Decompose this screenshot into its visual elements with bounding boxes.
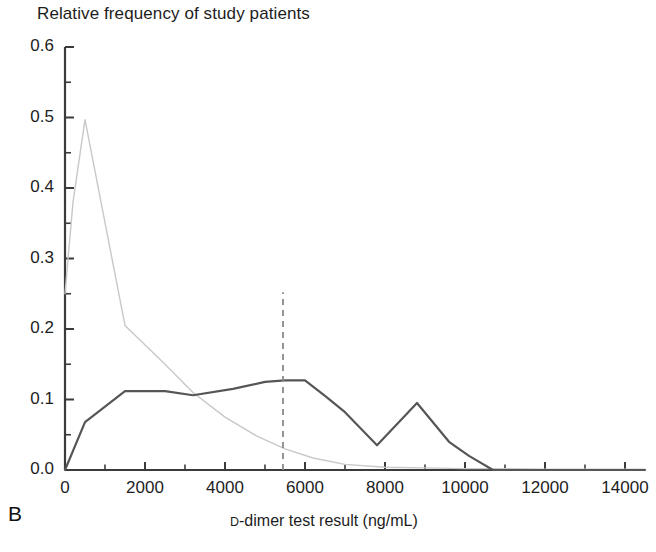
x-tick-label: 2000 xyxy=(110,478,180,498)
x-tick-label: 4000 xyxy=(190,478,260,498)
x-tick-label: 8000 xyxy=(350,478,420,498)
series-line-pulmonary-embolism xyxy=(65,380,645,470)
series-line-no-pulmonary-embolism xyxy=(65,120,645,470)
plot-area xyxy=(0,0,656,552)
y-tick-label: 0.6 xyxy=(8,36,54,56)
data-series xyxy=(65,120,645,470)
y-tick-label: 0.2 xyxy=(8,318,54,338)
x-tick-label: 14000 xyxy=(590,478,656,498)
x-tick-label: 12000 xyxy=(510,478,580,498)
x-tick-label: 10000 xyxy=(430,478,500,498)
y-tick-label: 0.5 xyxy=(8,107,54,127)
x-tick-label: 0 xyxy=(30,478,100,498)
y-tick-label: 0.3 xyxy=(8,248,54,268)
x-tick-label: 6000 xyxy=(270,478,340,498)
y-tick-label: 0.1 xyxy=(8,389,54,409)
y-tick-label: 0.4 xyxy=(8,177,54,197)
figure-panel: Relative frequency of study patients B D… xyxy=(0,0,656,552)
y-tick-label: 0.0 xyxy=(8,459,54,479)
axes xyxy=(65,47,645,470)
